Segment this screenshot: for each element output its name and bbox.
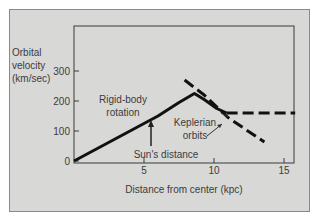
x-tick-label: 10 xyxy=(208,165,220,176)
y-tick-label: 200 xyxy=(53,96,70,107)
y-tick-label: 0 xyxy=(64,156,70,167)
annotation-suns-distance: Sun's distance xyxy=(134,149,199,160)
annotation-keplerian: orbits xyxy=(183,130,207,141)
y-tick-label: 100 xyxy=(53,126,70,137)
y-axis-label: velocity xyxy=(12,60,45,71)
y-axis-label: (km/sec) xyxy=(12,73,50,84)
annotation-rigid-body: Rigid-body xyxy=(99,94,147,105)
rotation-curve-chart: 010020030051015Distance from center (kpc… xyxy=(0,0,319,220)
x-tick-label: 5 xyxy=(141,165,147,176)
y-axis-label: Orbital xyxy=(12,47,41,58)
y-tick-label: 300 xyxy=(53,66,70,77)
annotation-rigid-body: rotation xyxy=(106,107,139,118)
annotation-keplerian: Keplerian xyxy=(174,117,216,128)
x-tick-label: 15 xyxy=(278,165,290,176)
x-axis-label: Distance from center (kpc) xyxy=(125,184,242,195)
